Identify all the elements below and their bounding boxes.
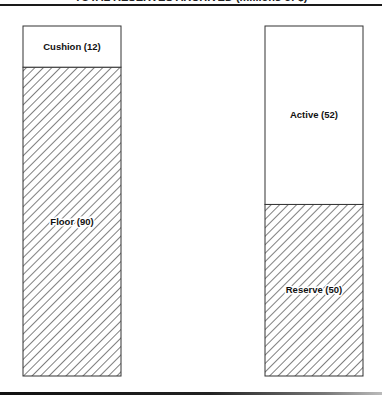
segment-label-floor: Floor (90) xyxy=(50,216,93,227)
bottom-rule xyxy=(0,392,382,395)
stacked-bar-chart: Floor (90)Cushion (12)Reserve (50)Active… xyxy=(0,0,382,397)
segment-label-cushion: Cushion (12) xyxy=(43,41,101,52)
bars-group: Floor (90)Cushion (12)Reserve (50)Active… xyxy=(23,26,363,376)
segment-label-reserve: Reserve (50) xyxy=(286,284,343,295)
segment-label-active: Active (52) xyxy=(290,109,338,120)
